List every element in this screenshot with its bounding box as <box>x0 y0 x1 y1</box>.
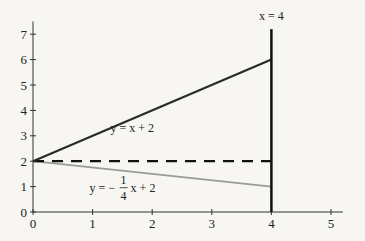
x-tick-label: 1 <box>89 216 96 231</box>
chart: 01234501234567 y = x + 2 y = − 1 4 x + 2… <box>0 0 365 241</box>
label-suffix: x + 2 <box>131 181 156 195</box>
series-line <box>33 60 271 162</box>
y-tick-label: 5 <box>21 78 28 93</box>
axes: 01234501234567 <box>21 22 343 232</box>
y-tick-label: 1 <box>21 179 28 194</box>
fraction-denominator: 4 <box>121 189 127 203</box>
y-tick-label: 2 <box>21 154 28 169</box>
label-y-equals-x-plus-2: y = x + 2 <box>110 121 154 135</box>
fraction-numerator: 1 <box>121 173 127 187</box>
x-tick-label: 3 <box>209 216 216 231</box>
x-tick-label: 4 <box>268 216 275 231</box>
x-tick-label: 2 <box>149 216 156 231</box>
label-x-equals-4: x = 4 <box>259 9 284 23</box>
y-tick-label: 3 <box>21 128 28 143</box>
label-y-equals-neg-quarter-x-plus-2: y = − <box>90 181 116 195</box>
x-tick-label: 5 <box>328 216 335 231</box>
y-tick-label: 4 <box>21 103 28 118</box>
y-tick-label: 0 <box>21 205 28 220</box>
annotations: y = x + 2 y = − 1 4 x + 2 x = 4 <box>90 9 284 202</box>
x-tick-label: 0 <box>30 216 37 231</box>
y-tick-label: 6 <box>21 52 28 67</box>
y-tick-label: 7 <box>21 27 28 42</box>
